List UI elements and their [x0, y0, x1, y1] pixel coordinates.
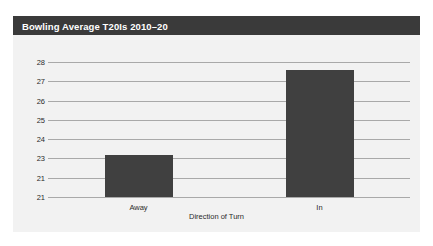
y-axis-tick-label: 25 [19, 115, 45, 124]
x-axis-title: Direction of Turn [13, 212, 420, 221]
bar-in[interactable] [286, 70, 354, 197]
gridline [48, 158, 410, 159]
y-axis-tick-label: 27 [19, 77, 45, 86]
x-axis-tick-label: In [316, 203, 322, 212]
y-axis-tick-label: 21 [19, 193, 45, 202]
y-axis-tick-label: 21 [19, 173, 45, 182]
gridline [48, 120, 410, 121]
bar-away[interactable] [105, 155, 173, 197]
x-axis-tick-label: Away [129, 203, 147, 212]
gridline [48, 62, 410, 63]
plot-area: Direction of Turn 2827262524232121AwayIn [13, 16, 420, 232]
gridline [48, 81, 410, 82]
gridline [48, 139, 410, 140]
chart-panel: Bowling Average T20Is 2010–20 Direction … [13, 16, 420, 232]
gridline [48, 178, 410, 179]
y-axis-tick-label: 26 [19, 96, 45, 105]
y-axis-tick-label: 23 [19, 154, 45, 163]
y-axis-tick-label: 24 [19, 135, 45, 144]
gridline [48, 197, 410, 198]
y-axis-tick-label: 28 [19, 58, 45, 67]
gridline [48, 101, 410, 102]
